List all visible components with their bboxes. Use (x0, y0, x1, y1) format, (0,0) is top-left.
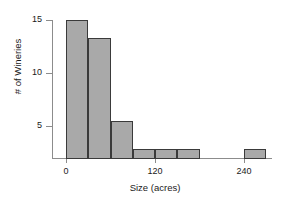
bar-bin-30-60 (88, 38, 110, 159)
y-tick-5 (46, 126, 53, 127)
histogram-chart: 15 10 5 0 120 240 Size (acres) # of Wine… (0, 0, 285, 209)
y-tick-15 (46, 20, 53, 21)
x-axis-title: Size (acres) (95, 182, 215, 193)
x-tick-label-240: 240 (224, 166, 264, 176)
bar-bin-60-90 (111, 121, 133, 159)
bar-bin-90-120 (133, 149, 155, 159)
bar-bin-0-30 (66, 20, 88, 159)
plot-area: 15 10 5 0 120 240 Size (acres) # of Wine… (0, 0, 285, 209)
y-axis-line (52, 20, 53, 159)
bar-bin-120-150 (155, 149, 177, 159)
y-tick-10 (46, 73, 53, 74)
x-tick-label-0: 0 (46, 166, 86, 176)
bar-bin-150-180 (177, 149, 199, 159)
bar-bin-240-270 (244, 149, 266, 159)
y-tick-label-5: 5 (18, 121, 42, 130)
x-tick-label-120: 120 (135, 166, 175, 176)
y-axis-title: # of Wineries (12, 22, 23, 112)
y-tick-label-5-wrap: 5 (18, 121, 42, 130)
